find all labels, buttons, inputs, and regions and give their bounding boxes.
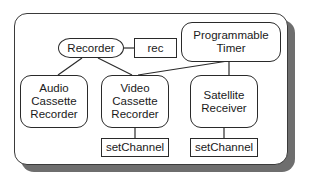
programmable-timer-node: Programmable Timer [181,22,281,62]
satellite-set-channel-node: setChannel [190,138,258,157]
edge-recorder-audio [58,58,82,75]
satellite-receiver-node: Satellite Receiver [190,75,258,128]
vcr-set-channel-node: setChannel [101,138,169,157]
recorder-node: Recorder [58,38,124,58]
rec-node: rec [134,38,177,58]
audio-cassette-recorder-node: Audio Cassette Recorder [20,75,88,128]
video-cassette-recorder-node: Video Cassette Recorder [101,75,169,128]
edge-recorder-video [98,58,132,75]
edge-timer-video [138,61,228,75]
